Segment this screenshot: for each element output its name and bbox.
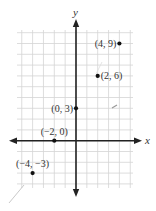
y-axis-top-arrow-icon xyxy=(73,19,79,27)
y-axis: y xyxy=(72,6,79,197)
data-points: (4, 9)(2, 6)(0, 3)(−2, 0)(−4, −3) xyxy=(16,38,122,175)
point-marker-icon xyxy=(30,171,34,175)
point-marker-icon xyxy=(117,41,121,45)
point-marker-icon xyxy=(74,106,78,110)
point-label: (2, 6) xyxy=(101,70,123,82)
point-marker-icon xyxy=(52,139,56,143)
y-axis-label: y xyxy=(72,6,78,18)
data-point: (0, 3) xyxy=(51,103,78,115)
x-axis: x xyxy=(9,134,150,146)
point-label: (0, 3) xyxy=(51,103,73,115)
data-point: (2, 6) xyxy=(96,70,123,82)
coordinate-plane: x y (4, 9)(2, 6)(0, 3)(−2, 0)(−4, −3) xyxy=(0,0,156,211)
data-point: (−4, −3) xyxy=(16,158,49,175)
x-axis-left-arrow-icon xyxy=(9,138,17,144)
data-point: (4, 9) xyxy=(95,38,122,50)
point-label: (−4, −3) xyxy=(16,158,49,170)
y-axis-bottom-arrow-icon xyxy=(73,189,79,197)
x-axis-right-arrow-icon xyxy=(134,138,142,144)
point-label: (−2, 0) xyxy=(41,126,68,138)
point-label: (4, 9) xyxy=(95,38,117,50)
x-axis-label: x xyxy=(144,134,150,146)
point-marker-icon xyxy=(96,74,100,78)
